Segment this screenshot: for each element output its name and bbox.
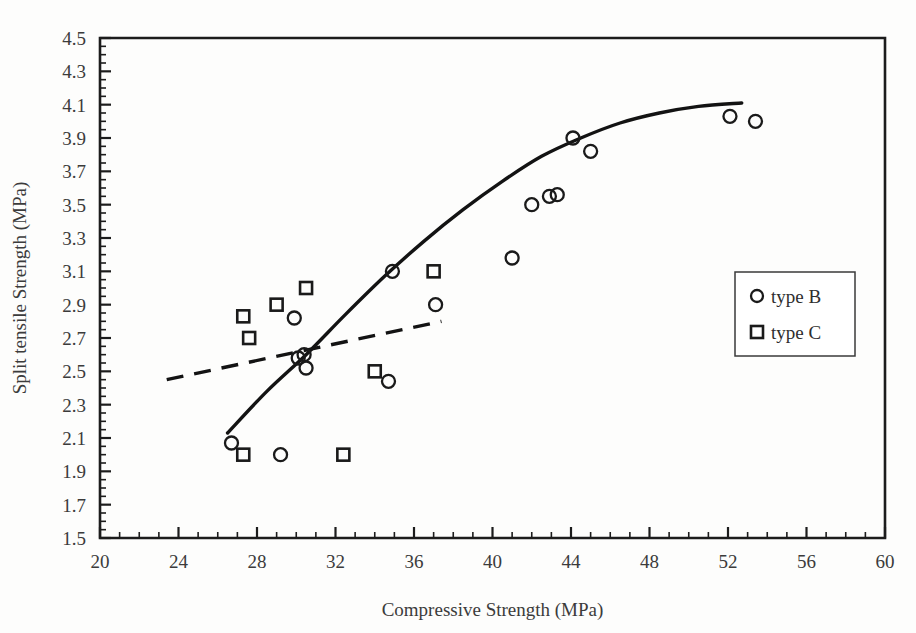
y-tick-label: 4.3 [62, 61, 86, 82]
x-tick-label: 32 [326, 551, 345, 572]
legend-label: type C [771, 322, 821, 343]
data-point-circle [723, 110, 736, 123]
chart-figure: 20242832364044485256601.51.71.92.12.32.5… [0, 0, 916, 633]
x-tick-label: 28 [248, 551, 267, 572]
y-tick-label: 2.5 [62, 361, 86, 382]
data-point-circle [551, 188, 564, 201]
data-point-square [271, 299, 283, 311]
data-point-circle [288, 312, 301, 325]
x-tick-label: 40 [483, 551, 502, 572]
data-point-circle [429, 298, 442, 311]
data-point-square [369, 365, 381, 377]
trend-line-dashed [167, 321, 442, 379]
y-tick-label: 1.5 [62, 528, 86, 549]
x-tick-label: 36 [405, 551, 424, 572]
y-tick-label: 4.1 [62, 95, 86, 116]
y-tick-label: 3.9 [62, 128, 86, 149]
data-point-square [237, 310, 249, 322]
data-point-square [300, 282, 312, 294]
x-tick-label: 56 [797, 551, 816, 572]
legend-label: type B [771, 286, 821, 307]
y-tick-label: 2.7 [62, 328, 86, 349]
y-tick-label: 4.5 [62, 28, 86, 49]
y-tick-label: 3.7 [62, 161, 86, 182]
data-point-circle [274, 448, 287, 461]
x-tick-label: 52 [719, 551, 738, 572]
data-point-circle [382, 375, 395, 388]
x-tick-label: 20 [91, 551, 110, 572]
x-tick-label: 60 [876, 551, 895, 572]
legend-box [735, 272, 855, 356]
data-point-circle [749, 115, 762, 128]
y-tick-label: 3.5 [62, 195, 86, 216]
data-point-square [337, 449, 349, 461]
data-point-square [428, 265, 440, 277]
data-point-circle [300, 362, 313, 375]
x-tick-label: 24 [169, 551, 189, 572]
trend-line-solid [228, 103, 742, 433]
x-axis-title: Compressive Strength (MPa) [382, 599, 604, 621]
y-tick-label: 2.1 [62, 428, 86, 449]
scatter-plot: 20242832364044485256601.51.71.92.12.32.5… [0, 0, 916, 633]
y-tick-label: 2.3 [62, 395, 86, 416]
data-point-circle [506, 252, 519, 265]
data-point-circle [525, 198, 538, 211]
x-tick-label: 44 [562, 551, 582, 572]
data-point-square [237, 449, 249, 461]
y-axis-title: Split tensile Strength (MPa) [9, 182, 31, 395]
x-tick-label: 48 [640, 551, 659, 572]
y-tick-label: 2.9 [62, 295, 86, 316]
y-tick-label: 3.3 [62, 228, 86, 249]
data-point-circle [584, 145, 597, 158]
data-point-square [243, 332, 255, 344]
y-tick-label: 3.1 [62, 261, 86, 282]
y-tick-label: 1.7 [62, 495, 86, 516]
y-tick-label: 1.9 [62, 461, 86, 482]
